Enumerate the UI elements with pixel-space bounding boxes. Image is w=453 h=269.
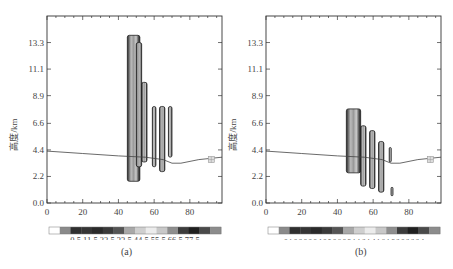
y-tick-label: 13.3: [247, 38, 263, 48]
echo-cell: [361, 126, 366, 186]
colorbar-cell: [114, 227, 125, 234]
colorbar-cell: [397, 227, 408, 234]
y-tick-label: 8.9: [252, 91, 264, 101]
colorbar-cell: [49, 227, 60, 234]
x-tick-label: 80: [185, 207, 195, 217]
caption-b: (b): [355, 246, 367, 257]
colorbar-cell: [333, 227, 344, 234]
colorbar-cell: [60, 227, 71, 234]
colorbar-cell: [408, 227, 419, 234]
echo-cell: [346, 109, 360, 173]
x-tick-label: 40: [114, 207, 124, 217]
y-axis-label: 高度/km: [227, 118, 238, 150]
x-tick-label: 80: [404, 207, 414, 217]
colorbar-cell: [290, 227, 301, 234]
y-tick-label: 11.1: [248, 64, 263, 74]
y-tick-label: 2.2: [33, 171, 44, 181]
colorbar-cell: [354, 227, 365, 234]
colorbar-cell: [365, 227, 376, 234]
panel-a: 0204060800.02.24.46.68.911.113.3高度/km0.5…: [0, 0, 230, 269]
x-tick-label: 20: [78, 207, 88, 217]
colorbar-cell: [178, 227, 189, 234]
y-tick-label: 0.0: [33, 198, 45, 208]
heatmap-chart-a: 0204060800.02.24.46.68.911.113.3高度/km0.5…: [0, 0, 230, 240]
echo-cell: [152, 106, 156, 166]
echo-cell: [136, 43, 141, 167]
echo-cell: [391, 187, 393, 195]
colorbar-cell: [386, 227, 397, 234]
caption-a: (a): [121, 246, 132, 257]
x-tick-label: 40: [333, 207, 343, 217]
y-tick-label: 6.6: [33, 118, 45, 128]
x-tick-label: 60: [150, 207, 160, 217]
panel-b: 0204060800.02.24.46.68.911.113.3高度/km0.1…: [220, 0, 453, 269]
colorbar-cell: [157, 227, 168, 234]
y-tick-label: 0.0: [252, 198, 264, 208]
x-tick-label: 0: [264, 207, 269, 217]
colorbar-cell: [200, 227, 211, 234]
y-tick-label: 11.1: [29, 64, 44, 74]
colorbar-cell: [279, 227, 290, 234]
y-tick-label: 4.4: [33, 145, 45, 155]
y-tick-label: 4.4: [252, 145, 264, 155]
echo-cell: [379, 141, 384, 192]
x-tick-label: 60: [369, 207, 379, 217]
echo-cell: [389, 148, 391, 162]
colorbar-labels: 0.1 0.2 0.3 0.4 0.5 0.6 0.8 1 1.2 1.4 1.…: [284, 237, 425, 240]
y-axis-label: 高度/km: [8, 118, 19, 150]
colorbar-cell: [124, 227, 135, 234]
x-tick-label: 20: [297, 207, 307, 217]
colorbar-cell: [146, 227, 157, 234]
heatmap-chart-b: 0204060800.02.24.46.68.911.113.3高度/km0.1…: [220, 0, 453, 240]
y-tick-label: 2.2: [252, 171, 263, 181]
echo-cell: [370, 131, 375, 189]
colorbar-cell: [268, 227, 279, 234]
colorbar-cell: [167, 227, 178, 234]
echo-cell: [168, 106, 172, 157]
colorbar-cell: [376, 227, 387, 234]
colorbar-cell: [92, 227, 103, 234]
y-tick-label: 6.6: [252, 118, 264, 128]
colorbar-cell: [71, 227, 82, 234]
colorbar-cell: [135, 227, 146, 234]
echo-cell: [160, 106, 165, 171]
colorbar-cell: [81, 227, 92, 234]
y-tick-label: 13.3: [28, 38, 44, 48]
colorbar-cell: [103, 227, 114, 234]
echo-cell: [142, 82, 147, 162]
x-tick-label: 0: [45, 207, 50, 217]
colorbar-cell: [429, 227, 440, 234]
colorbar-cell: [343, 227, 354, 234]
y-tick-label: 8.9: [33, 91, 45, 101]
colorbar-cell: [189, 227, 200, 234]
colorbar-cell: [419, 227, 430, 234]
colorbar-labels: 0.5 11.5 22.5 33.5 44.5 55.5 66.5 77.5: [70, 235, 199, 240]
colorbar-cell: [311, 227, 322, 234]
colorbar-cell: [300, 227, 311, 234]
colorbar-cell: [322, 227, 333, 234]
